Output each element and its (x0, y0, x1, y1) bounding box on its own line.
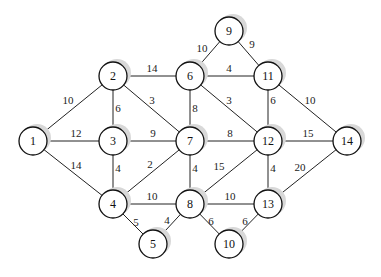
node-label: 6 (187, 69, 193, 83)
node-11: 11 (254, 59, 286, 90)
edge-weight-label: 10 (197, 42, 209, 54)
edge-weight-label: 5 (133, 216, 139, 228)
edge-weight-label: 4 (192, 162, 198, 174)
node-label: 8 (187, 197, 193, 211)
edge-weight-label: 15 (214, 160, 226, 172)
node-2: 2 (99, 59, 131, 90)
node-1: 1 (19, 124, 51, 155)
node-9: 9 (215, 14, 247, 45)
edge-1-4 (33, 141, 113, 204)
edge-weight-label: 6 (270, 94, 276, 106)
node-13: 13 (254, 187, 286, 218)
node-label: 5 (150, 237, 156, 251)
edge-weight-label: 4 (226, 62, 232, 74)
node-label: 9 (226, 24, 232, 38)
edge-weight-label: 3 (226, 94, 232, 106)
edge-weight-label: 12 (71, 127, 82, 139)
edge-weight-label: 20 (295, 161, 307, 173)
node-label: 14 (341, 134, 353, 148)
edge-weight-label: 9 (150, 127, 156, 139)
edge-weight-label: 4 (164, 214, 170, 226)
edge-weight-label: 14 (71, 159, 83, 171)
edge-weight-label: 3 (149, 94, 155, 106)
edge-weight-label: 10 (147, 190, 159, 202)
node-6: 6 (176, 59, 208, 90)
node-label: 12 (262, 134, 274, 148)
edge-weight-label: 8 (227, 127, 233, 139)
node-label: 7 (187, 134, 193, 148)
edge-weight-label: 2 (147, 158, 153, 170)
edge-weight-label: 10 (225, 190, 237, 202)
node-8: 8 (176, 187, 208, 218)
node-label: 4 (110, 197, 116, 211)
edge-weight-label: 6 (208, 215, 214, 227)
edge-weight-label: 4 (115, 162, 121, 174)
edge-weight-label: 6 (242, 215, 248, 227)
node-label: 3 (110, 134, 116, 148)
edge-weight-label: 10 (63, 94, 75, 106)
node-label: 2 (110, 69, 116, 83)
edge-weight-label: 8 (192, 102, 198, 114)
graph-diagram: 101214614394210541048398415106661015420 … (0, 0, 381, 277)
edge-weight-label: 15 (303, 127, 315, 139)
node-label: 13 (262, 197, 274, 211)
node-3: 3 (99, 124, 131, 155)
edge-weight-label: 4 (270, 162, 276, 174)
node-14: 14 (333, 124, 365, 155)
node-4: 4 (99, 187, 131, 218)
node-label: 11 (262, 69, 274, 83)
node-label: 1 (30, 134, 36, 148)
edge-weight-label: 6 (115, 102, 121, 114)
edge-weight-label: 9 (249, 38, 255, 50)
node-label: 10 (223, 237, 235, 251)
edge-weight-label: 10 (305, 94, 317, 106)
node-7: 7 (176, 124, 208, 155)
node-12: 12 (254, 124, 286, 155)
edge-weight-label: 14 (147, 62, 159, 74)
node-10: 10 (215, 227, 247, 258)
node-5: 5 (139, 227, 171, 258)
